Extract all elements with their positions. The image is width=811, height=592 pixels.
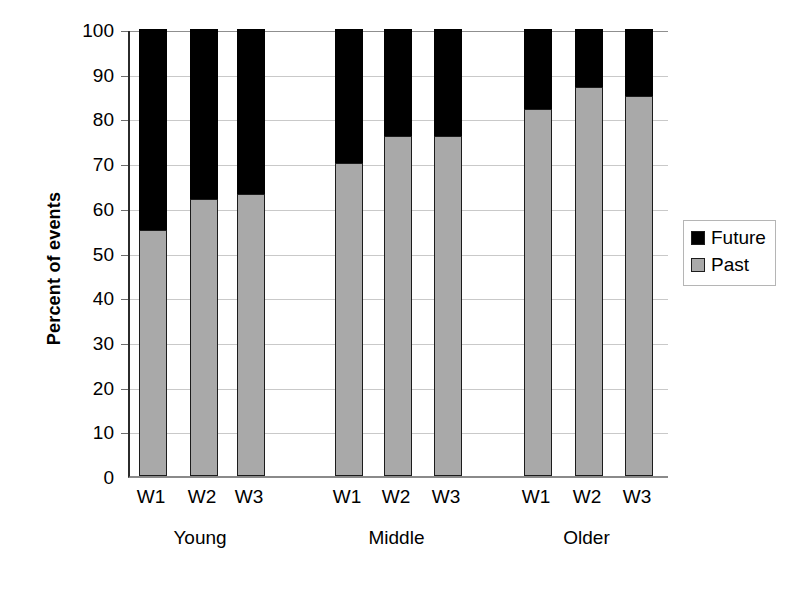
bar-older-w2 <box>575 29 603 476</box>
y-tick-label-70: 70 <box>48 155 114 174</box>
bar-middle-w2 <box>384 29 412 476</box>
bar-young-w2 <box>190 29 218 476</box>
x-tick-label-5: W3 <box>416 486 476 508</box>
bar-segment-past <box>190 199 218 476</box>
x-tick-label-2: W3 <box>219 486 279 508</box>
y-tick-mark-40 <box>121 299 128 300</box>
bar-segment-past <box>625 96 653 476</box>
bar-segment-future <box>625 29 653 96</box>
bar-segment-future <box>237 29 265 194</box>
legend: Future Past <box>683 220 776 286</box>
bar-segment-future <box>335 29 363 163</box>
y-tick-label-50: 50 <box>48 245 114 264</box>
bar-segment-past <box>237 194 265 476</box>
y-tick-mark-100 <box>121 31 128 32</box>
y-tick-mark-60 <box>121 210 128 211</box>
group-label-middle: Middle <box>337 527 457 549</box>
legend-item-past: Past <box>691 255 749 274</box>
y-tick-mark-90 <box>121 76 128 77</box>
legend-label-future: Future <box>711 228 766 247</box>
y-tick-label-100: 100 <box>48 21 114 40</box>
bar-segment-past <box>434 136 462 476</box>
y-tick-label-60: 60 <box>48 200 114 219</box>
bar-segment-future <box>190 29 218 199</box>
bar-young-w3 <box>237 29 265 476</box>
y-tick-label-20: 20 <box>48 379 114 398</box>
legend-item-future: Future <box>691 228 766 247</box>
bar-segment-future <box>384 29 412 136</box>
y-tick-mark-50 <box>121 255 128 256</box>
y-tick-mark-20 <box>121 389 128 390</box>
y-tick-label-90: 90 <box>48 66 114 85</box>
bar-segment-past <box>575 87 603 476</box>
plot-area <box>128 31 668 478</box>
y-tick-label-30: 30 <box>48 334 114 353</box>
bar-older-w3 <box>625 29 653 476</box>
bar-segment-future <box>139 29 167 230</box>
y-tick-label-40: 40 <box>48 289 114 308</box>
bar-segment-future <box>434 29 462 136</box>
bar-middle-w1 <box>335 29 363 476</box>
bar-segment-future <box>575 29 603 87</box>
group-label-young: Young <box>140 527 260 549</box>
group-label-older: Older <box>527 527 647 549</box>
y-tick-label-80: 80 <box>48 110 114 129</box>
chart-root: Percent of events 0102030405060708090100… <box>0 0 811 592</box>
bar-segment-past <box>524 109 552 476</box>
bar-young-w1 <box>139 29 167 476</box>
bar-middle-w3 <box>434 29 462 476</box>
y-tick-mark-30 <box>121 344 128 345</box>
legend-swatch-past <box>691 258 705 272</box>
bar-segment-past <box>335 163 363 476</box>
legend-label-past: Past <box>711 255 749 274</box>
y-tick-label-0: 0 <box>48 468 114 487</box>
bar-segment-future <box>524 29 552 109</box>
y-tick-mark-10 <box>121 433 128 434</box>
plot-inner <box>130 31 668 476</box>
bar-older-w1 <box>524 29 552 476</box>
x-tick-label-8: W3 <box>607 486 667 508</box>
legend-swatch-future <box>691 231 705 245</box>
bar-segment-past <box>139 230 167 476</box>
y-tick-label-10: 10 <box>48 423 114 442</box>
y-tick-mark-80 <box>121 120 128 121</box>
bar-segment-past <box>384 136 412 476</box>
y-tick-mark-70 <box>121 165 128 166</box>
